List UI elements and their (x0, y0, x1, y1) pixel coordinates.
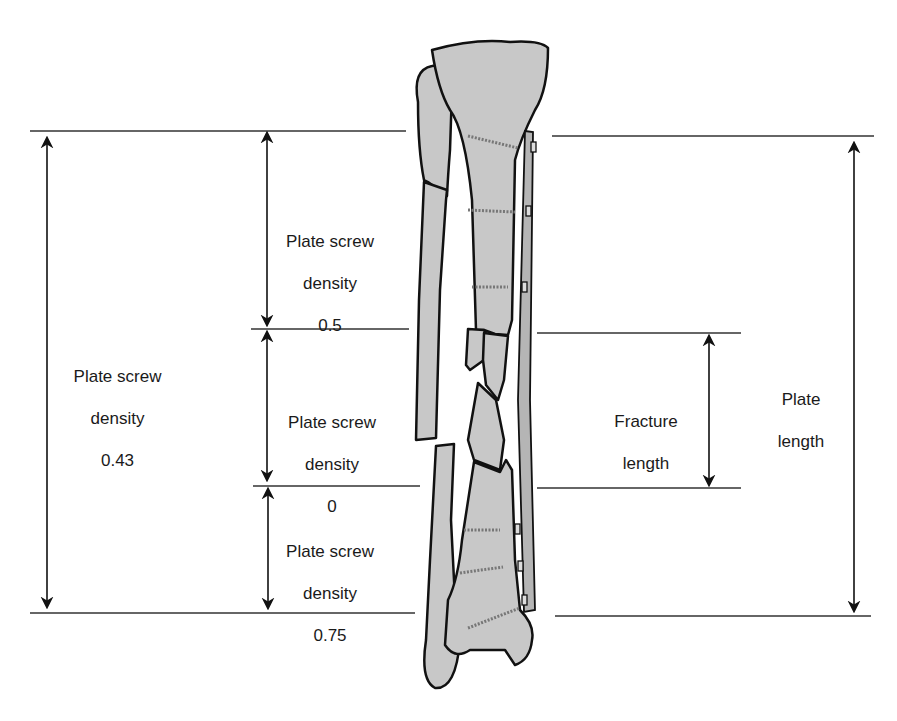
fracture-length-label: Fracture length (600, 390, 692, 495)
overall-density-label: Plate screw density 0.43 (55, 345, 180, 492)
lower-density-label: Plate screw density 0.75 (270, 520, 390, 667)
plate-length-label: Plate length (766, 368, 836, 473)
middle-density-label: Plate screw density 0 (272, 391, 392, 538)
upper-density-label: Plate screw density 0.5 (270, 210, 390, 357)
fibula-upper-shaft (416, 182, 447, 440)
fixation-plate (518, 131, 535, 612)
